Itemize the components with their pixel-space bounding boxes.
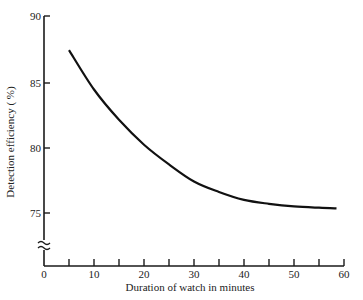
y-tick-label-75: 75 xyxy=(30,207,42,219)
y-tick-label-90: 90 xyxy=(30,10,42,22)
x-ticks xyxy=(69,259,344,266)
y-axis-title: Detection efficiency ( %) xyxy=(4,86,17,198)
detection-efficiency-curve xyxy=(69,50,337,208)
x-tick-label-20: 20 xyxy=(139,268,151,280)
x-axis-title: Duration of watch in minutes xyxy=(126,281,255,293)
x-tick-label-10: 10 xyxy=(89,268,101,280)
x-tick-label-0: 0 xyxy=(41,268,47,280)
x-tick-label-40: 40 xyxy=(239,268,251,280)
chart: 90 85 80 75 0 10 20 30 40 50 60 Duration… xyxy=(0,0,363,300)
y-tick-label-85: 85 xyxy=(30,77,42,89)
y-ticks xyxy=(44,16,50,213)
x-tick-label-50: 50 xyxy=(289,268,301,280)
x-tick-label-30: 30 xyxy=(189,268,201,280)
y-tick-label-80: 80 xyxy=(30,142,42,154)
axis-break-icon xyxy=(38,240,50,250)
x-tick-label-60: 60 xyxy=(339,268,351,280)
